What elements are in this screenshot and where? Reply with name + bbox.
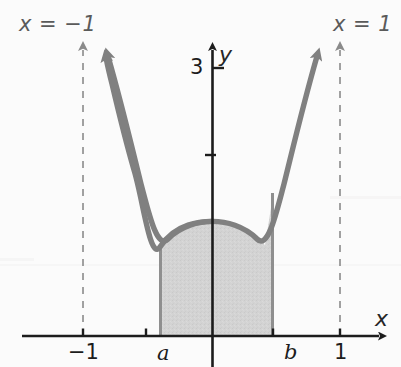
y-tick-label-3: 3 (190, 57, 203, 78)
curve-left (109, 58, 213, 241)
x-tick-label-b: b (284, 342, 297, 363)
integral-area-figure: x = −1 x = 1 y x 3 −1 a b 1 (0, 0, 401, 367)
asymptote-label-left: x = −1 (19, 14, 96, 35)
curve-right (213, 58, 317, 241)
x-tick-label-minus-1: −1 (68, 342, 99, 363)
x-tick-label-1: 1 (334, 342, 347, 363)
x-axis-label: x (375, 308, 388, 330)
x-tick-label-a: a (157, 343, 170, 364)
y-axis-label: y (219, 44, 232, 66)
asymptote-label-right: x = 1 (333, 14, 392, 35)
